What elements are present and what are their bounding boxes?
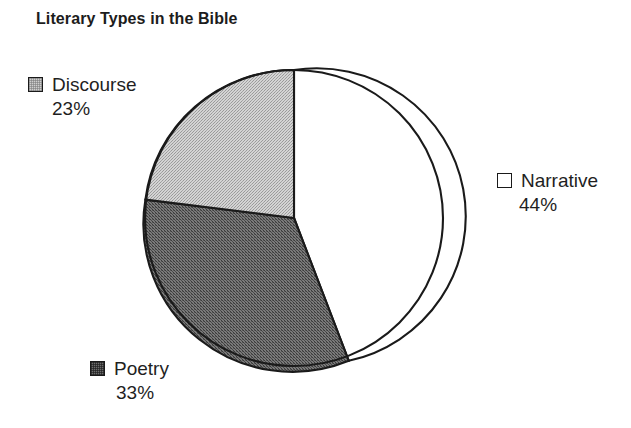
pie-slice-discourse[interactable] (145, 70, 294, 218)
legend-item-label: Poetry (114, 358, 169, 379)
chart-page: Literary Types in the Bible (0, 0, 631, 428)
white-swatch-icon (497, 173, 512, 188)
legend-row: Discourse (28, 74, 136, 95)
legend-item-label: Narrative (521, 170, 598, 191)
dark-gray-dither-swatch-icon (90, 361, 105, 376)
legend-item-value: 33% (116, 382, 169, 403)
legend-item-value: 44% (519, 194, 598, 215)
legend-row: Narrative (497, 170, 598, 191)
legend-row: Poetry (90, 358, 169, 379)
light-gray-dither-swatch-icon (28, 77, 43, 92)
legend-item-value: 23% (52, 98, 136, 119)
legend-item-narrative[interactable]: Narrative 44% (497, 170, 598, 215)
legend-item-discourse[interactable]: Discourse 23% (28, 74, 136, 119)
legend-item-poetry[interactable]: Poetry 33% (90, 358, 169, 403)
legend-item-label: Discourse (52, 74, 136, 95)
